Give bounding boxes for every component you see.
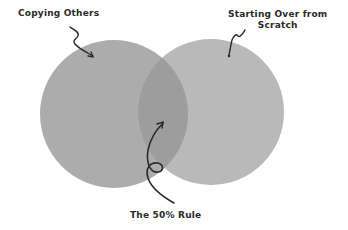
label-50-percent-rule: The 50% Rule	[130, 210, 201, 221]
label-starting-over: Starting Over from Scratch	[228, 9, 327, 31]
venn-graphic	[0, 0, 348, 230]
venn-diagram: Copying Others Starting Over from Scratc…	[0, 0, 348, 230]
label-copying-others: Copying Others	[18, 8, 99, 19]
label-starting-over-line2: Scratch	[228, 20, 327, 31]
label-starting-over-line1: Starting Over from	[228, 9, 327, 20]
